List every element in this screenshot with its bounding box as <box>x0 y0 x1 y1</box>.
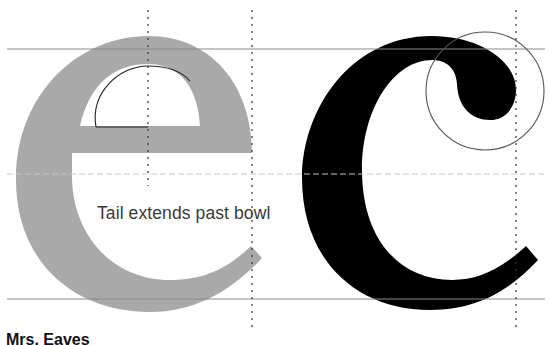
letterform-diagram <box>0 0 550 345</box>
caption-text: Tail extends past bowl <box>97 203 270 224</box>
glyph-c <box>302 36 538 310</box>
font-name-label: Mrs. Eaves <box>6 331 90 345</box>
